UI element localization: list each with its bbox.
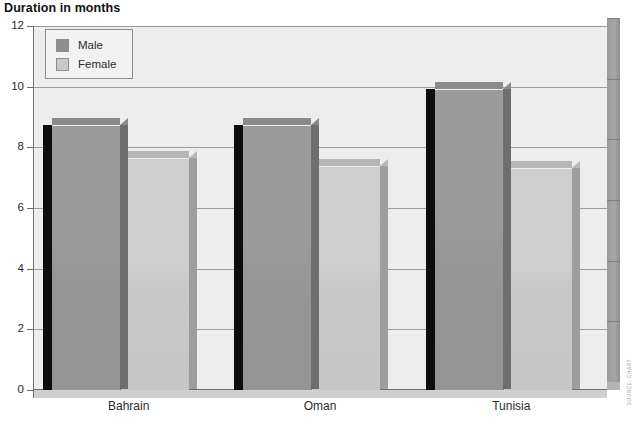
bar-side-face (311, 125, 319, 389)
bar-front-face (504, 169, 572, 390)
y-tick-label: 8 (0, 141, 24, 153)
bar-side-face (503, 89, 511, 389)
category-label-tunisia: Tunisia (416, 399, 607, 413)
bar-top-face (243, 118, 311, 125)
bar-front-face (435, 90, 503, 390)
gridline-side (607, 79, 620, 80)
bar-tunisia-female (504, 161, 572, 390)
credit-watermark: SOURCE: CHART (626, 359, 632, 406)
gridline-side (607, 139, 620, 140)
category-label-bahrain: Bahrain (33, 399, 224, 413)
gridline (33, 26, 607, 27)
legend-item-male: Male (56, 36, 132, 55)
y-axis-line (33, 26, 34, 398)
plot-floor-right (607, 382, 620, 390)
legend-item-female: Female (56, 55, 132, 74)
plot-top-cap (33, 18, 607, 26)
bar-side-face (189, 158, 197, 389)
bar-side-face (380, 166, 388, 389)
bar-top-face (312, 159, 380, 166)
footnote-text (195, 416, 630, 425)
bar-front-face (243, 126, 311, 390)
bar-oman-female (312, 159, 380, 390)
legend: Male Female (45, 29, 133, 79)
y-tick-label: 12 (0, 20, 24, 32)
bar-tunisia-male (435, 82, 503, 390)
bar-shadow (426, 89, 435, 390)
legend-label-male: Male (78, 40, 103, 52)
legend-label-female: Female (78, 59, 116, 71)
bar-front-face (312, 167, 380, 390)
legend-swatch-male-icon (56, 39, 69, 52)
bar-top-face (504, 161, 572, 168)
bar-front-face (121, 159, 189, 390)
bar-top-face (52, 118, 120, 125)
gridline-side (607, 261, 620, 262)
chart-title: Duration in months (4, 1, 120, 15)
gridline-side (607, 321, 620, 322)
bar-front-face (52, 126, 120, 390)
plot-floor (33, 390, 607, 398)
bar-side-face (572, 168, 580, 389)
bar-top-face (435, 82, 503, 89)
y-tick-label: 10 (0, 81, 24, 93)
bar-chart: Duration in months 024681012 BahrainOman… (0, 0, 634, 426)
bar-shadow (43, 125, 52, 390)
bar-bahrain-female (121, 151, 189, 390)
gridline-side (607, 200, 620, 201)
bar-oman-male (243, 118, 311, 390)
gridline-side (607, 18, 620, 19)
gridline (33, 87, 607, 88)
category-label-oman: Oman (224, 399, 415, 413)
legend-swatch-female-icon (56, 58, 69, 71)
y-tick-label: 4 (0, 263, 24, 275)
bar-bahrain-male (52, 118, 120, 390)
bar-shadow (234, 125, 243, 390)
y-tick-label: 2 (0, 323, 24, 335)
y-tick-label: 6 (0, 202, 24, 214)
bar-side-face (120, 125, 128, 389)
bar-top-face (121, 151, 189, 158)
y-tick-label: 0 (0, 384, 24, 396)
